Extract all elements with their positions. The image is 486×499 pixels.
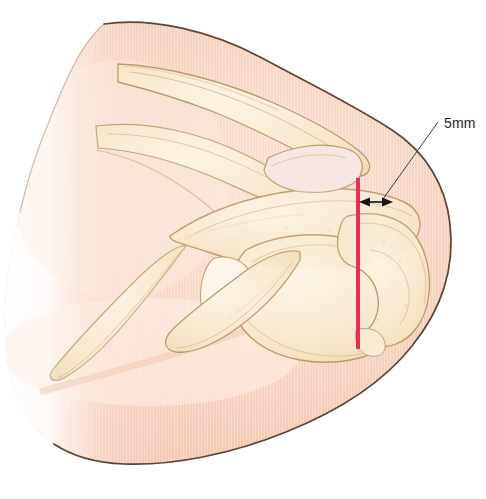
measurement-label: 5mm xyxy=(444,115,475,131)
anatomy-illustration-svg: 5mm xyxy=(0,0,486,499)
illustration-canvas: 5mm xyxy=(0,0,486,499)
